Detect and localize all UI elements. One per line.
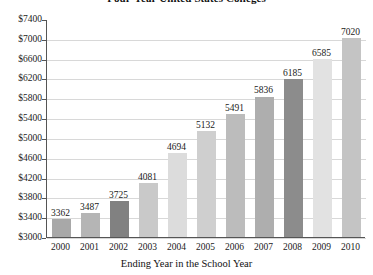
bar-value-label: 5132	[189, 121, 223, 131]
y-tick-mark	[42, 238, 46, 239]
bar-value-label: 3487	[73, 203, 107, 213]
bar-value-label: 7020	[334, 28, 368, 38]
bar-value-label: 3725	[102, 191, 136, 201]
x-axis-title: Ending Year in the School Year	[0, 258, 373, 269]
y-tick-label: $3400	[0, 213, 42, 223]
bar[interactable]	[168, 153, 187, 237]
bar[interactable]	[342, 38, 361, 237]
bar[interactable]	[52, 219, 71, 237]
y-tick-label: $5000	[0, 134, 42, 144]
y-tick-label: $4200	[0, 174, 42, 184]
y-tick-label: $5400	[0, 114, 42, 124]
bar[interactable]	[255, 97, 274, 238]
bar[interactable]	[110, 201, 129, 237]
y-tick-label: $3000	[0, 233, 42, 243]
gridline	[47, 238, 366, 239]
y-tick-label: $4600	[0, 154, 42, 164]
y-tick-label: $6200	[0, 74, 42, 84]
bar[interactable]	[284, 79, 303, 237]
bar[interactable]	[197, 131, 216, 237]
x-tick-label: 2010	[334, 242, 368, 252]
gridline	[47, 40, 366, 41]
bar-value-label: 6585	[305, 49, 339, 59]
y-tick-label: $3800	[0, 193, 42, 203]
bar[interactable]	[226, 114, 245, 237]
bar-value-label: 5836	[247, 86, 281, 96]
bar-value-label: 6185	[276, 69, 310, 79]
bar[interactable]	[81, 213, 100, 237]
y-tick-label: $6600	[0, 55, 42, 65]
chart-title: Four-Year United States Colleges	[0, 0, 373, 4]
bar-chart-figure: Four-Year United States Colleges $7400$7…	[0, 0, 373, 275]
y-tick-label: $5800	[0, 94, 42, 104]
y-tick-label: $7000	[0, 35, 42, 45]
bar-value-label: 4081	[131, 173, 165, 183]
bar-value-label: 4694	[160, 143, 194, 153]
bar-value-label: 5491	[218, 104, 252, 114]
bar[interactable]	[313, 59, 332, 237]
y-tick-label: $7400	[0, 15, 42, 25]
bar[interactable]	[139, 183, 158, 237]
